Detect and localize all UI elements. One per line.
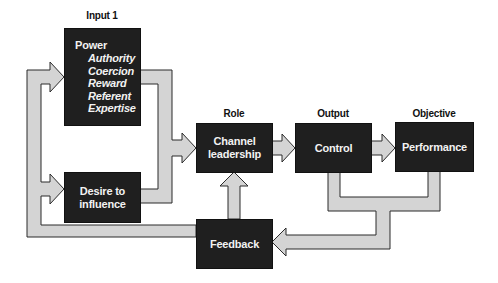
arrow-outputs-to-feedback [272,171,440,256]
power-item-reward: Reward [75,77,140,90]
column-label-role: Role [196,108,272,119]
arrow-channel-to-control [272,134,295,162]
power-item-coercion: Coercion [75,65,140,78]
power-item-authority: Authority [75,52,140,65]
arrow-inputs-to-channel [140,70,196,203]
arrow-feedback-to-channel [220,172,248,219]
power-title: Power [75,39,140,52]
arrow-control-to-performance [371,134,395,162]
node-desire-to-influence: Desire to influence [64,172,141,223]
desire-line-2: influence [79,198,126,211]
feedback-label: Feedback [210,238,259,251]
channel-line-2: leadership [208,148,261,161]
node-control: Control [295,123,372,173]
node-feedback: Feedback [196,219,273,269]
node-power: Power Authority Coercion Reward Referent… [64,28,141,126]
column-label-output: Output [295,108,371,119]
channel-line-1: Channel [214,135,256,148]
desire-line-1: Desire to [80,185,125,198]
node-channel-leadership: Channel leadership [196,123,273,173]
performance-label: Performance [402,141,467,154]
power-item-referent: Referent [75,90,140,103]
control-label: Control [315,142,353,155]
column-label-objective: Objective [395,108,473,119]
node-performance: Performance [395,122,474,172]
column-label-input: Input 1 [64,10,140,21]
power-item-expertise: Expertise [75,102,140,115]
